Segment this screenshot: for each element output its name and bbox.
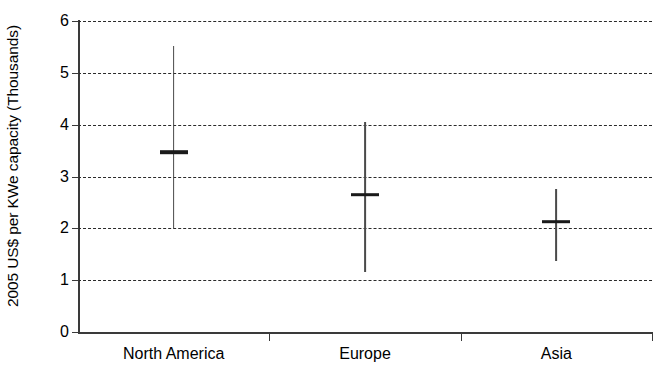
gridline-y-5: [78, 73, 652, 74]
y-tick-label-0: 0: [60, 324, 69, 340]
range-bar-europe: [364, 122, 366, 272]
x-axis-end-cap: [652, 332, 653, 341]
y-tick-label-3: 3: [60, 169, 69, 185]
y-tick-mark-3: [72, 177, 79, 178]
y-tick-label-5: 5: [60, 65, 69, 81]
x-axis-line: [78, 332, 652, 334]
y-tick-mark-1: [72, 280, 79, 281]
range-bar-north-america: [173, 46, 175, 228]
y-tick-label-1: 1: [60, 272, 69, 288]
range-bar-asia: [555, 189, 557, 261]
y-tick-label-4: 4: [60, 117, 69, 133]
y-axis-title: 2005 US$ per KWe capacity (Thousands): [0, 0, 26, 332]
y-tick-label-6: 6: [60, 13, 69, 29]
y-tick-label-2: 2: [60, 220, 69, 236]
y-tick-mark-0: [72, 332, 79, 333]
mean-marker-north-america: [160, 150, 188, 154]
x-axis-separator-1: [269, 332, 270, 341]
x-tick-label-north-america: North America: [123, 346, 224, 362]
y-tick-mark-5: [72, 73, 79, 74]
y-tick-mark-2: [72, 228, 79, 229]
x-tick-label-europe: Europe: [339, 346, 391, 362]
gridline-y-6: [78, 21, 652, 22]
range-chart: 2005 US$ per KWe capacity (Thousands) 01…: [0, 0, 660, 383]
x-axis-separator-2: [461, 332, 462, 341]
mean-marker-europe: [351, 193, 379, 197]
y-tick-mark-4: [72, 125, 79, 126]
y-tick-mark-6: [72, 21, 79, 22]
plot-area: 0123456 North AmericaEuropeAsia: [78, 21, 652, 332]
gridline-y-1: [78, 280, 652, 281]
x-tick-label-asia: Asia: [541, 346, 572, 362]
mean-marker-asia: [542, 220, 570, 224]
